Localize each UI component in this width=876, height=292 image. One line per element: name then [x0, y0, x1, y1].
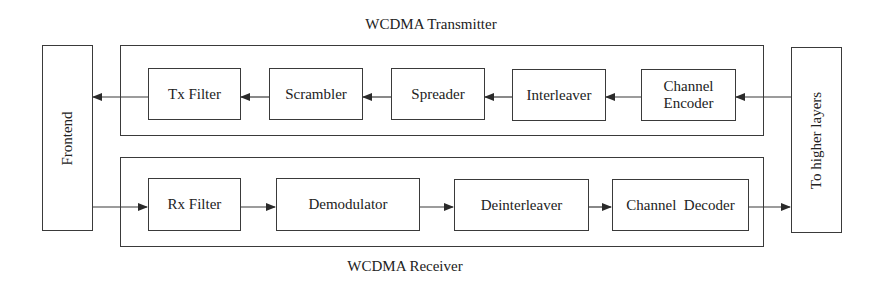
tx-filter-label: Tx Filter: [168, 86, 221, 103]
rx-filter-block: Rx Filter: [148, 178, 241, 231]
frontend-label: Frontend: [59, 111, 76, 165]
tx-filter-block: Tx Filter: [148, 68, 241, 120]
scrambler-label: Scrambler: [285, 86, 347, 103]
transmitter-title: WCDMA Transmitter: [365, 16, 496, 33]
interleaver-label: Interleaver: [527, 87, 592, 104]
demodulator-label: Demodulator: [308, 196, 387, 213]
deinterleaver-label: Deinterleaver: [481, 197, 563, 214]
rx-filter-label: Rx Filter: [168, 196, 222, 213]
channel-encoder-label-line1: Channel: [664, 78, 714, 95]
spreader-block: Spreader: [391, 68, 485, 120]
interleaver-block: Interleaver: [512, 69, 606, 121]
frontend-block: Frontend: [42, 45, 93, 231]
channel-encoder-label-line2: Encoder: [664, 95, 714, 112]
channel-encoder-block: Channel Encoder: [641, 69, 736, 121]
higher-layers-label: To higher layers: [808, 91, 825, 188]
scrambler-block: Scrambler: [269, 68, 363, 120]
channel-decoder-block: Channel Decoder: [612, 179, 749, 231]
receiver-title: WCDMA Receiver: [347, 258, 462, 275]
demodulator-block: Demodulator: [276, 178, 420, 231]
deinterleaver-block: Deinterleaver: [454, 179, 589, 231]
channel-decoder-label: Channel Decoder: [626, 197, 734, 214]
higher-layers-block: To higher layers: [791, 47, 842, 233]
signal-flow-arrows: [0, 0, 876, 292]
spreader-label: Spreader: [411, 86, 464, 103]
wcdma-block-diagram: WCDMA Transmitter WCDMA Receiver Fronten…: [0, 0, 876, 292]
